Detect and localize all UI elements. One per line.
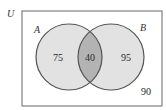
set-a-only-count: 75: [53, 52, 63, 63]
venn-diagram: U A B 75 40 95 90: [0, 0, 166, 110]
universe-label: U: [7, 8, 15, 19]
set-a-label: A: [33, 24, 41, 35]
set-b-only-count: 95: [121, 52, 131, 63]
intersection-count: 40: [85, 52, 95, 63]
outside-count: 90: [141, 86, 151, 97]
set-b-label: B: [140, 22, 146, 33]
